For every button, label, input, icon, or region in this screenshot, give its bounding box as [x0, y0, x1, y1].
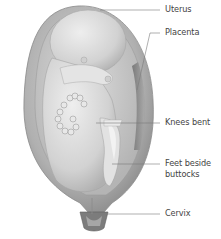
label-placenta: Placenta	[165, 27, 199, 37]
label-uterus: Uterus	[165, 4, 191, 14]
label-knees-bent: Knees bent	[165, 117, 210, 127]
label-cervix: Cervix	[165, 208, 191, 218]
label-buttocks: buttocks	[165, 169, 200, 179]
breech-diagram: Uterus Placenta Knees bent Feet beside b…	[0, 0, 221, 239]
label-feet-beside: Feet beside	[165, 158, 211, 168]
